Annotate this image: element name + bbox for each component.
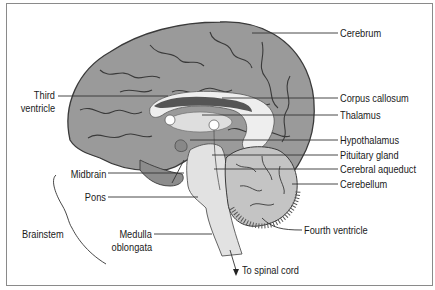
label-brainstem: Brainstem [22, 228, 64, 240]
arrow-down-icon [233, 269, 239, 276]
label-pituitary-gland: Pituitary gland [340, 149, 399, 161]
label-corpus-callosum: Corpus callosum [340, 92, 409, 104]
label-medulla-line1: Medulla [120, 228, 152, 240]
label-thalamus: Thalamus [340, 109, 381, 121]
label-hypothalamus: Hypothalamus [340, 134, 399, 146]
label-cerebellum: Cerebellum [340, 178, 387, 190]
label-to-spinal-cord: To spinal cord [242, 264, 299, 276]
brainstem-bracket [54, 175, 106, 264]
label-pons: Pons [85, 191, 106, 203]
third-ventricle-nub [165, 115, 175, 125]
cerebellum-shape [225, 147, 297, 227]
label-midbrain: Midbrain [71, 168, 106, 180]
aqueduct-nub [209, 120, 219, 130]
label-third-ventricle-line2: ventricle [21, 102, 55, 114]
label-third-ventricle-line1: Third [34, 89, 55, 101]
label-fourth-ventricle: Fourth ventricle [304, 224, 368, 236]
label-medulla-line2: oblongata [111, 241, 152, 253]
label-cerebrum: Cerebrum [340, 27, 381, 39]
pituitary-shape [175, 140, 187, 152]
label-cerebral-aqueduct: Cerebral aqueduct [340, 163, 416, 175]
